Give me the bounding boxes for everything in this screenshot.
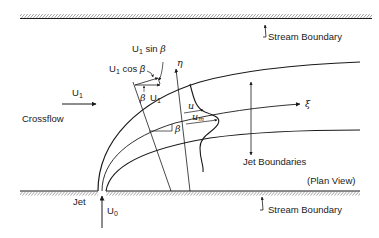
bottom-stream-boundary-label: Stream Boundary xyxy=(268,204,342,215)
top-stream-boundary-pointer xyxy=(263,25,266,37)
jet-velocity-label: U0 xyxy=(107,205,118,217)
bottom-stream-boundary-pointer xyxy=(260,197,263,210)
top-stream-boundary xyxy=(20,14,372,19)
jet-boundary-outer xyxy=(98,62,360,191)
jet-boundaries-label: Jet Boundaries xyxy=(243,156,307,167)
beta-angle-label-centerline: β xyxy=(174,123,181,134)
u1-sin-beta-label: U1 sin β xyxy=(132,43,166,55)
u1-cos-beta-label: U1 cos β xyxy=(109,63,146,75)
jet-label: Jet xyxy=(73,196,86,207)
plan-view-label: (Plan View) xyxy=(307,175,355,186)
jet-crossflow-diagram: Stream Boundary Stream Boundary (Plan Vi… xyxy=(0,0,379,238)
top-stream-boundary-label: Stream Boundary xyxy=(268,31,342,42)
eta-axis-label: η xyxy=(177,57,183,68)
velocity-profile xyxy=(184,84,219,172)
beta-angle-label-top: β xyxy=(139,92,146,103)
bottom-stream-boundary xyxy=(20,191,360,196)
crossflow-label: Crossflow xyxy=(22,113,64,124)
crossflow-velocity-label: U1 xyxy=(72,87,83,99)
u1-vector-label: U1 xyxy=(150,92,161,104)
u-local-label: u xyxy=(188,100,194,111)
u-max-label: um xyxy=(192,111,204,122)
xi-axis-label: ξ xyxy=(305,98,311,109)
